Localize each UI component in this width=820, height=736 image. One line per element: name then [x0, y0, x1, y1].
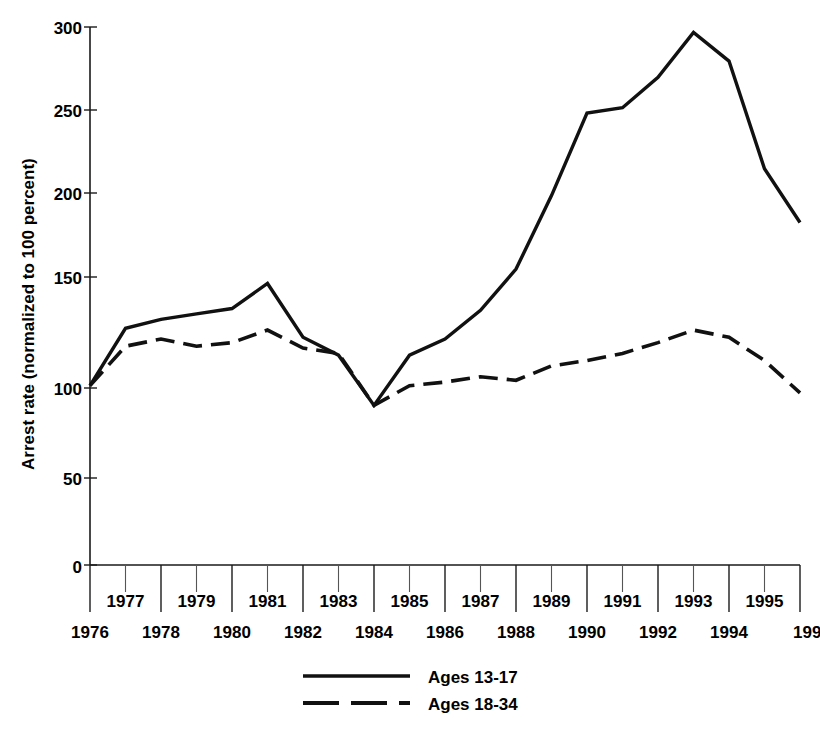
x-tick-label: 1981	[249, 592, 287, 611]
x-tick-label: 1985	[391, 592, 429, 611]
y-tick-label: 200	[54, 185, 82, 204]
legend-label-ages-13-17: Ages 13-17	[428, 668, 518, 687]
y-axis-tick-labels: 300 250 200 150 100 50 0	[54, 19, 82, 577]
x-tick-label: 1984	[355, 623, 393, 642]
x-tick-label: 1983	[320, 592, 358, 611]
x-tick-label: 1987	[462, 592, 500, 611]
x-tick-label: 1993	[675, 592, 713, 611]
x-tick-label: 1980	[213, 623, 251, 642]
x-tick-label: 1994	[710, 623, 748, 642]
legend-label-ages-18-34: Ages 18-34	[428, 695, 518, 714]
y-tick-label: 100	[54, 380, 82, 399]
y-tick-label: 150	[54, 269, 82, 288]
x-axis-labels-lower: 1976 1978 1980 1982 1984 1986 1988 1990 …	[71, 623, 820, 642]
series-line-ages-18-34	[90, 330, 800, 405]
y-axis-title: Arrest rate (normalized to 100 percent)	[19, 158, 38, 470]
x-tick-label: 1977	[107, 592, 145, 611]
y-tick-label: 300	[54, 19, 82, 38]
x-tick-label-truncated: 199	[793, 623, 820, 642]
x-tick-label: 1982	[284, 623, 322, 642]
x-tick-label: 1986	[426, 623, 464, 642]
series-line-ages-13-17	[90, 32, 800, 405]
x-tick-label: 1995	[746, 592, 784, 611]
legend: Ages 13-17 Ages 18-34	[303, 668, 518, 714]
x-tick-label: 1978	[142, 623, 180, 642]
x-tick-label: 1976	[71, 623, 109, 642]
x-tick-label: 1979	[178, 592, 216, 611]
y-tick-label: 250	[54, 102, 82, 121]
y-tick-label: 50	[63, 470, 82, 489]
chart-page: Arrest rate (normalized to 100 percent) …	[0, 0, 820, 736]
x-tick-label: 1989	[533, 592, 571, 611]
y-tick-label: 0	[73, 558, 82, 577]
x-tick-label: 1991	[604, 592, 642, 611]
line-chart: Arrest rate (normalized to 100 percent) …	[0, 0, 820, 736]
x-tick-label: 1992	[639, 623, 677, 642]
x-tick-label: 1990	[568, 623, 606, 642]
x-tick-label: 1988	[497, 623, 535, 642]
